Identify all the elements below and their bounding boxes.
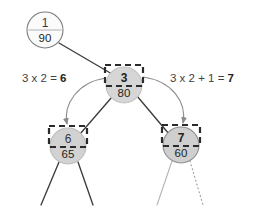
edge-node6-to-left-child (41, 162, 59, 205)
edge-node7-to-left-child (157, 161, 172, 205)
node-7-value: 60 (175, 147, 188, 159)
right-child-formula: 3 x 2 + 1 = 7 (170, 72, 234, 84)
heap-index-diagram: 1 90 3 80 6 65 7 60 3 (0, 0, 258, 209)
right-formula-expression: 3 x 2 + 1 = (170, 72, 228, 84)
edge-node3-to-node7 (137, 96, 169, 134)
node-3-index: 3 (121, 71, 128, 85)
arc-node3-to-node6 (66, 78, 106, 124)
tree-node-1[interactable]: 1 90 (27, 12, 63, 48)
left-formula-expression: 3 x 2 = (22, 72, 60, 84)
node-6-value: 65 (62, 148, 75, 160)
node-1-value: 90 (39, 32, 52, 44)
node-1-index: 1 (42, 16, 49, 30)
right-formula-result: 7 (228, 72, 234, 84)
node-7-index: 7 (178, 131, 185, 145)
edge-node7-to-right-child (190, 161, 203, 205)
left-child-formula: 3 x 2 = 6 (22, 72, 66, 84)
node-3-value: 80 (118, 87, 131, 99)
left-formula-result: 6 (60, 72, 66, 84)
edge-node6-to-right-child (78, 162, 93, 205)
diagram-canvas: 1 90 3 80 6 65 7 60 3 (0, 0, 258, 209)
edge-node3-to-node6 (80, 97, 112, 134)
node-6-index: 6 (65, 132, 72, 146)
